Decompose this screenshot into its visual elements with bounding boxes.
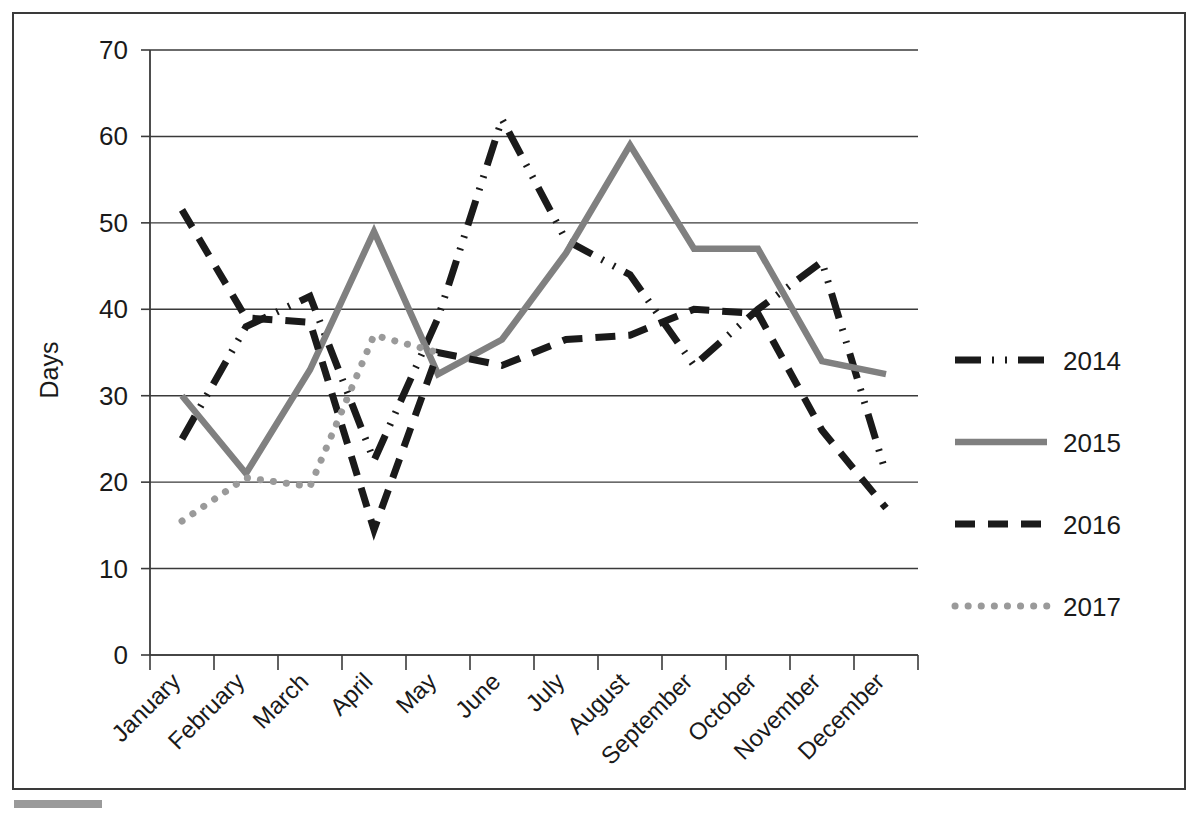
y-tick-label: 0 [114,640,128,670]
y-tick-label: 10 [99,554,128,584]
x-tick-label-march: March [247,667,313,733]
x-tick-label-july: July [520,667,569,716]
chart-svg: 010203040506070 JanuaryFebruaryMarchApri… [0,0,1199,819]
legend-label-2014: 2014 [1063,346,1121,376]
y-tick-label: 30 [99,381,128,411]
data-series-group [182,119,886,530]
legend-group: 2014201520162017 [955,346,1121,622]
y-tick-label: 20 [99,467,128,497]
y-tick-label: 40 [99,294,128,324]
y-tick-label: 60 [99,121,128,151]
y-tick-label: 70 [99,35,128,65]
x-tick-label-june: June [450,667,506,723]
x-axis-group [150,655,918,670]
line-chart: 010203040506070 JanuaryFebruaryMarchApri… [0,0,1199,819]
y-axis-title: Days [35,342,63,399]
y-axis-group [141,50,150,655]
y-tick-label: 50 [99,208,128,238]
chart-page: 010203040506070 JanuaryFebruaryMarchApri… [0,0,1199,819]
legend-label-2015: 2015 [1063,428,1121,458]
legend-label-2017: 2017 [1063,592,1121,622]
y-tick-labels-group: 010203040506070 [99,35,128,670]
x-tick-label-may: May [390,667,441,718]
x-tick-labels-group: JanuaryFebruaryMarchAprilMayJuneJulyAugu… [106,667,889,769]
legend-label-2016: 2016 [1063,510,1121,540]
x-tick-label-april: April [324,667,377,720]
